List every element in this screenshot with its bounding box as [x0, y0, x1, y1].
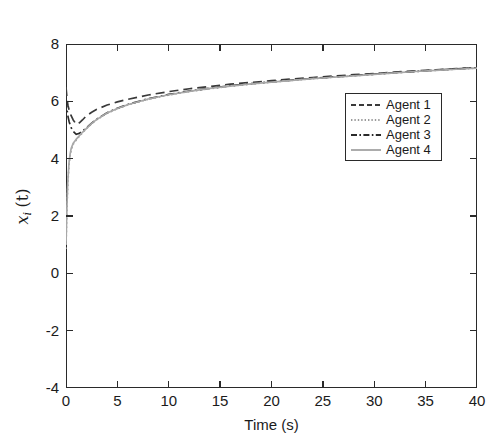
x-tick-mark [117, 381, 118, 388]
x-tick-mark-top [271, 44, 272, 51]
y-tick-mark [66, 273, 73, 274]
x-tick-label: 10 [147, 392, 191, 409]
x-axis-label: Time (s) [66, 416, 477, 433]
y-axis-label-argument: (t) [13, 189, 32, 208]
y-tick-mark-right [470, 215, 477, 216]
x-tick-mark-top [374, 44, 375, 51]
x-tick-label: 35 [404, 392, 448, 409]
y-tick-mark-right [470, 330, 477, 331]
legend-entry-label-4: Agent 4 [386, 143, 431, 156]
x-tick-mark [374, 381, 375, 388]
x-tick-label: 5 [95, 392, 139, 409]
y-tick-mark [66, 330, 73, 331]
figure-container: 0510152025303540-4-202468 Time (s) xi (t… [0, 0, 501, 441]
legend-entry-4[interactable]: Agent 4 [350, 142, 437, 157]
y-tick-label: -4 [19, 379, 59, 396]
x-tick-mark [271, 381, 272, 388]
x-tick-label: 20 [250, 392, 294, 409]
x-tick-label: 25 [301, 392, 345, 409]
x-tick-mark-top [117, 44, 118, 51]
x-tick-label: 15 [198, 392, 242, 409]
y-tick-label: 8 [19, 35, 59, 52]
legend-box: Agent 1Agent 2Agent 3Agent 4 [345, 93, 442, 161]
legend-line-sample-3 [350, 129, 382, 141]
x-tick-mark-top [425, 44, 426, 51]
y-tick-label: 6 [19, 92, 59, 109]
x-tick-label: 40 [455, 392, 499, 409]
y-tick-mark [66, 101, 73, 102]
legend-entry-1[interactable]: Agent 1 [350, 97, 437, 112]
y-tick-label: 0 [19, 264, 59, 281]
y-tick-mark-right [470, 158, 477, 159]
x-tick-mark-top [322, 44, 323, 51]
x-tick-mark [168, 381, 169, 388]
legend-line-sample-4 [350, 144, 382, 156]
legend-entry-3[interactable]: Agent 3 [350, 127, 437, 142]
x-tick-mark [219, 381, 220, 388]
x-tick-mark-top [168, 44, 169, 51]
legend-line-sample-2 [350, 114, 382, 126]
y-tick-label: -2 [19, 322, 59, 339]
x-tick-label: 30 [352, 392, 396, 409]
y-tick-mark [66, 158, 73, 159]
x-tick-mark-top [219, 44, 220, 51]
y-axis-label: xi (t) [13, 162, 34, 252]
legend-line-sample-1 [350, 99, 382, 111]
legend-entry-label-2: Agent 2 [386, 113, 431, 126]
y-tick-mark-right [470, 273, 477, 274]
legend-entry-2[interactable]: Agent 2 [350, 112, 437, 127]
legend-entry-label-1: Agent 1 [386, 98, 431, 111]
legend-entry-label-3: Agent 3 [386, 128, 431, 141]
x-tick-mark [322, 381, 323, 388]
x-tick-mark [425, 381, 426, 388]
y-tick-mark [66, 215, 73, 216]
y-tick-mark-right [470, 101, 477, 102]
y-axis-label-variable: x [13, 215, 32, 224]
y-axis-label-subscript: i [21, 212, 34, 216]
